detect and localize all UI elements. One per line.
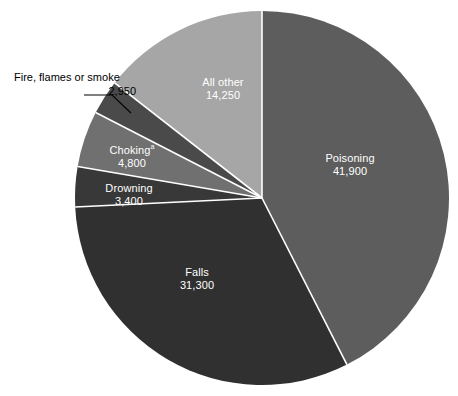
slice-label-choking: Chokinga 4,800	[90, 144, 174, 170]
slice-label-choking-value: 4,800	[90, 157, 174, 170]
slice-label-falls: Falls 31,300	[152, 266, 242, 292]
slice-label-all-other-name: All other	[202, 76, 243, 88]
slice-label-all-other: All other 14,250	[178, 76, 268, 102]
slice-label-drowning-value: 3,400	[84, 195, 174, 208]
slice-label-poisoning-value: 41,900	[305, 165, 395, 178]
slice-label-choking-footnote-marker: a	[151, 143, 155, 150]
slice-label-poisoning: Poisoning 41,900	[305, 152, 395, 178]
slice-label-poisoning-name: Poisoning	[325, 152, 374, 164]
slice-label-all-other-value: 14,250	[178, 89, 268, 102]
slice-callout-fire-name: Fire, flames or smoke	[14, 70, 138, 84]
slice-callout-fire-value: 2,950	[14, 84, 138, 98]
pie-chart: Poisoning 41,900 Falls 31,300 Drowning 3…	[0, 0, 458, 396]
slice-label-falls-value: 31,300	[152, 279, 242, 292]
slice-label-drowning-name: Drowning	[105, 182, 152, 194]
pie-chart-canvas	[0, 0, 458, 396]
slice-callout-label-fire: Fire, flames or smoke 2,950	[14, 70, 138, 98]
slice-label-choking-name: Choking	[109, 144, 150, 156]
slice-label-falls-name: Falls	[185, 266, 209, 278]
slice-label-drowning: Drowning 3,400	[84, 182, 174, 208]
